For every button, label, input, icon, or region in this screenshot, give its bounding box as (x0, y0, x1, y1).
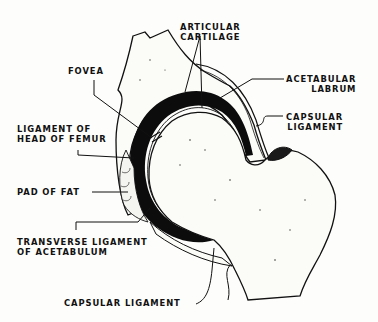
label-ligament-head-femur: LIGAMENT OF HEAD OF FEMUR (17, 124, 107, 144)
label-pad-of-fat: PAD OF FAT (17, 187, 80, 197)
hip-joint-illustration (0, 0, 378, 322)
hip-joint-diagram: ARTICULAR CARTILAGE FOVEA ACETABULAR LAB… (0, 0, 378, 322)
label-capsular-ligament-upper: CAPSULAR LIGAMENT (286, 112, 343, 132)
label-capsular-ligament-lower: CAPSULAR LIGAMENT (64, 298, 181, 308)
label-acetabular-labrum: ACETABULAR LABRUM (286, 74, 356, 94)
label-fovea: FOVEA (68, 66, 104, 76)
label-transverse-ligament: TRANSVERSE LIGAMENT OF ACETABULUM (17, 237, 148, 257)
label-articular-cartilage: ARTICULAR CARTILAGE (180, 22, 241, 42)
